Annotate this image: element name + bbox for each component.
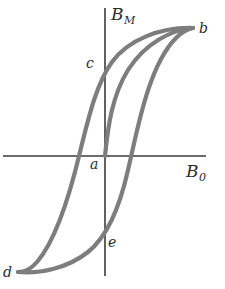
x-axis-label: B0 [186, 163, 206, 183]
y-axis-label-subscript: M [124, 14, 135, 27]
point-label-b: b [199, 21, 208, 35]
y-axis-label: BM [111, 6, 135, 26]
x-axis-label-subscript: 0 [199, 171, 206, 184]
x-axis-label-symbol: B [186, 161, 199, 181]
point-label-d: d [3, 265, 12, 279]
hysteresis-loop-figure: BM B0 a b c d e [0, 0, 225, 289]
point-label-a: a [90, 157, 98, 171]
point-label-e: e [108, 235, 116, 249]
point-label-c: c [86, 56, 94, 70]
y-axis-label-symbol: B [111, 4, 124, 24]
